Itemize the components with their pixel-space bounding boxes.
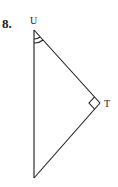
vertex-label-t: T bbox=[104, 98, 110, 109]
side-t-bottom bbox=[34, 103, 100, 178]
right-angle-mark bbox=[89, 97, 95, 109]
triangle-diagram: U T - bbox=[0, 0, 118, 187]
vertex-label-bottom: - bbox=[31, 181, 34, 187]
angle-arc-outer bbox=[34, 40, 43, 43]
side-u-t bbox=[34, 30, 100, 103]
vertex-label-u: U bbox=[30, 15, 38, 26]
angle-arc-inner bbox=[34, 37, 40, 39]
